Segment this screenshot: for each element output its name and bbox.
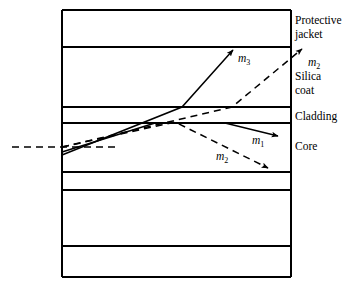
ray-label-m1-sub: 1 (260, 140, 264, 149)
layer-label-silica-coat: Silica coat (295, 70, 321, 97)
ray-label-m3: m3 (238, 52, 250, 64)
ray-label-m2-lower-sub: 2 (224, 156, 228, 165)
layer-label-protective-jacket: Protective jacket (295, 14, 342, 41)
ray-label-m2-upper-sub: 2 (316, 62, 320, 71)
ray-label-m2-upper: m2 (308, 56, 320, 68)
ray-m2-lower (62, 122, 268, 168)
layer-label-core: Core (295, 140, 317, 154)
ray-label-m3-sub: 3 (246, 58, 250, 67)
ray-m1 (62, 123, 278, 152)
fiber-ray-diagram: Protective jacket Silica coat Cladding C… (0, 0, 348, 292)
ray-label-m2-lower: m2 (216, 150, 228, 162)
ray-label-m1: m1 (252, 134, 264, 146)
ray-m3 (62, 50, 233, 155)
layer-label-cladding: Cladding (295, 110, 337, 124)
ray-paths (12, 49, 302, 168)
